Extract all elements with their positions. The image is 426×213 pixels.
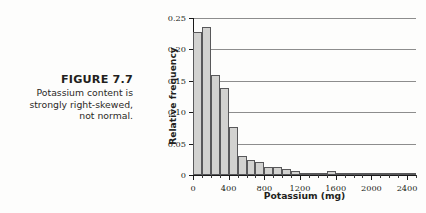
y-axis-title: Relative frequency [166,16,178,176]
caption-line-3: not normal. [0,110,135,122]
x-axis-minor-tick [255,175,256,178]
x-axis-tick [264,175,265,180]
x-axis-minor-tick [345,175,346,178]
x-axis-minor-tick [211,175,212,178]
gridline [193,18,416,19]
histogram-bar [202,27,211,175]
caption-line-2: strongly right-skewed, [0,99,135,111]
x-axis-minor-tick [380,175,381,178]
x-axis-line [193,175,417,176]
x-axis-minor-tick [282,175,283,178]
histogram-bar [407,173,416,176]
y-axis-tick-label: 0.10 [168,107,186,117]
histogram-bar [220,88,229,175]
gridline [193,81,416,82]
plot-area: 00.050.100.150.200.25 040080012001600200… [193,18,416,175]
caption-line-1: Potassium content is [0,87,135,99]
x-axis-tick [300,175,301,180]
histogram-bar [255,162,264,175]
x-axis-minor-tick [362,175,363,178]
y-axis-tick-label: 0.15 [168,76,186,86]
x-axis-minor-tick [247,175,248,178]
histogram-bar [398,173,407,175]
x-axis-minor-tick [309,175,310,178]
y-axis-title-text: Relative frequency [167,47,178,145]
histogram-bar [389,173,398,175]
y-axis-tick-label: 0 [181,170,186,180]
histogram-bar [247,160,256,175]
figure-number: FIGURE 7.7 [0,72,135,87]
x-axis-minor-tick [238,175,239,178]
y-axis-tick-label: 0.05 [168,139,186,149]
histogram-bar [300,173,309,176]
histogram-bar [229,127,238,175]
histogram-bar [309,173,318,175]
x-axis-tick [371,175,372,180]
x-axis-minor-tick [416,175,417,178]
x-axis-tick [407,175,408,180]
histogram-bar [211,75,220,175]
gridline [193,49,416,50]
histogram-bar [336,173,345,175]
histogram-bar [362,173,371,176]
histogram-bar [354,173,363,175]
x-axis-minor-tick [327,175,328,178]
histogram-bar [282,169,291,175]
x-axis-minor-tick [318,175,319,178]
x-axis-minor-tick [202,175,203,178]
histogram-bar [345,173,354,175]
histogram-bar [238,156,247,175]
histogram-bar [318,173,327,175]
y-axis-tick-label: 0.25 [168,13,186,23]
x-axis-title: Potassium (mg) [193,190,416,201]
x-axis-minor-tick [291,175,292,178]
histogram-bar [264,167,273,175]
x-axis-tick [193,175,194,180]
histogram-bar [193,32,202,175]
histogram-bar [380,173,389,175]
x-axis-minor-tick [389,175,390,178]
histogram-bar [371,173,380,175]
x-axis-minor-tick [220,175,221,178]
x-axis-tick [229,175,230,180]
x-axis-minor-tick [398,175,399,178]
y-axis-tick [189,18,194,19]
figure-page: FIGURE 7.7 Potassium content is strongly… [0,0,426,213]
histogram-chart: Relative frequency 00.050.100.150.200.25… [160,8,422,213]
histogram-bar [291,171,300,175]
x-axis-minor-tick [354,175,355,178]
x-axis-tick [336,175,337,180]
figure-caption: FIGURE 7.7 Potassium content is strongly… [0,72,135,122]
x-axis-minor-tick [273,175,274,178]
y-axis-tick-label: 0.20 [168,44,186,54]
histogram-bar [273,167,282,175]
histogram-bar [327,171,336,175]
